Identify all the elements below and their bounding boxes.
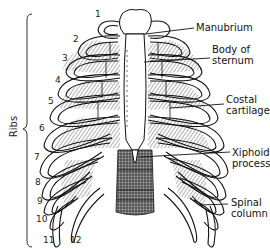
label-spinal-column: Spinal column [231, 197, 268, 219]
sternum [119, 10, 151, 163]
rib-number-3: 3 [62, 54, 68, 63]
rib-number-7: 7 [34, 153, 40, 162]
label-body-of-sternum-line2: sternum [212, 55, 254, 66]
rib-number-2: 2 [73, 35, 79, 44]
rib-number-6: 6 [39, 124, 45, 133]
rib-cage-diagram: Ribs 1 2 3 4 5 6 7 8 9 10 11 12 Manubriu… [0, 0, 270, 251]
rib-number-8: 8 [35, 178, 41, 187]
label-costal-cartilage-line2: cartilage [226, 105, 270, 116]
rib-number-10: 10 [36, 215, 47, 224]
label-xiphoid-process-line2: process [232, 158, 270, 169]
label-costal-cartilage-line1: Costal [226, 94, 270, 105]
rib-number-12: 12 [70, 236, 81, 245]
label-spinal-column-line2: column [231, 208, 268, 219]
label-xiphoid-process: Xiphoid process [232, 147, 270, 169]
label-body-of-sternum: Body of sternum [212, 44, 254, 66]
ribs-group-label: Ribs [8, 116, 19, 137]
manubrium-shape [119, 10, 151, 35]
label-spinal-column-line1: Spinal [231, 197, 268, 208]
label-manubrium: Manubrium [196, 22, 253, 33]
rib-number-5: 5 [48, 97, 54, 106]
label-costal-cartilage: Costal cartilage [226, 94, 270, 116]
rib-number-1: 1 [95, 10, 101, 19]
label-xiphoid-process-line1: Xiphoid [232, 147, 270, 158]
rib-number-4: 4 [55, 76, 61, 85]
ribs-bracket [23, 14, 32, 247]
rib-number-9: 9 [37, 197, 43, 206]
label-body-of-sternum-line1: Body of [212, 44, 254, 55]
rib-number-11: 11 [43, 236, 54, 245]
